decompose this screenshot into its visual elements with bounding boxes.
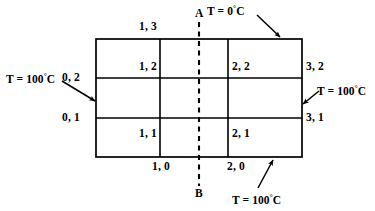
- centerline-label-a: A: [195, 8, 203, 20]
- boundary-label-top: T = 0°C: [207, 5, 245, 18]
- boundary-left-prefix: T =: [6, 73, 26, 85]
- arrow-left-boundary: [62, 81, 95, 101]
- boundary-top-prefix: T =: [207, 5, 227, 17]
- boundary-top-unit: C: [236, 5, 244, 17]
- node-label-1-3: 1, 3: [139, 21, 157, 33]
- boundary-label-left: T = 100°C: [6, 73, 55, 86]
- node-label-2-2: 2, 2: [232, 61, 250, 73]
- boundary-bottom-unit: C: [273, 194, 281, 206]
- diagram-vector-layer: [0, 0, 375, 211]
- boundary-right-unit: C: [358, 85, 366, 97]
- arrow-bottom-boundary: [258, 160, 273, 188]
- boundary-left-value: 100: [26, 73, 44, 85]
- boundary-label-bottom: T = 100°C: [232, 194, 281, 207]
- node-label-0-1: 0, 1: [62, 112, 80, 124]
- boundary-right-prefix: T =: [317, 85, 337, 97]
- boundary-bottom-prefix: T =: [232, 194, 252, 206]
- node-label-3-1: 3, 1: [306, 112, 324, 124]
- node-label-2-1: 2, 1: [232, 128, 250, 140]
- centerline-label-b: B: [195, 188, 203, 200]
- node-label-1-1: 1, 1: [139, 128, 157, 140]
- boundary-bottom-value: 100: [252, 194, 270, 206]
- node-label-1-2: 1, 2: [139, 61, 157, 73]
- node-label-2-0: 2, 0: [227, 161, 245, 173]
- arrow-top-boundary: [257, 15, 280, 37]
- node-label-1-0: 1, 0: [152, 161, 170, 173]
- boundary-left-unit: C: [47, 73, 55, 85]
- diagram-canvas: 1, 3 1, 2 2, 2 3, 2 0, 2 0, 1 3, 1 1, 1 …: [0, 0, 375, 211]
- node-label-0-2: 0, 2: [62, 72, 80, 84]
- boundary-label-right: T = 100°C: [317, 85, 366, 98]
- node-label-3-2: 3, 2: [306, 61, 324, 73]
- boundary-right-value: 100: [337, 85, 355, 97]
